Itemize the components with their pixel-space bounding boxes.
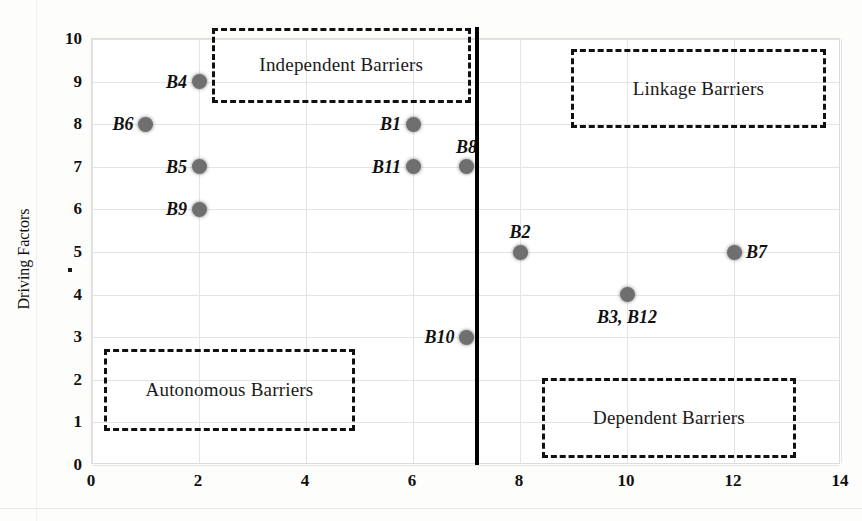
data-point xyxy=(513,245,528,260)
data-point-label: B8 xyxy=(456,138,477,156)
x-axis-tick-label: 0 xyxy=(71,472,111,489)
data-point-label: B5 xyxy=(166,158,187,176)
gridline-vertical xyxy=(92,39,93,463)
quadrant-box-independent: Independent Barriers xyxy=(212,28,471,103)
scan-speck-artifact xyxy=(68,268,72,272)
mdm-diagram-figure: Driving Factors 109876543210 Autonomous … xyxy=(0,0,862,521)
y-axis-tick-label: 3 xyxy=(42,328,82,345)
data-point xyxy=(620,287,635,302)
y-axis-tick-label: 9 xyxy=(42,72,82,89)
y-axis-tick-label: 6 xyxy=(42,200,82,217)
data-point xyxy=(138,117,153,132)
data-point xyxy=(192,74,207,89)
quadrant-box-dependent: Dependent Barriers xyxy=(542,378,796,458)
data-point xyxy=(192,159,207,174)
data-point xyxy=(406,159,421,174)
y-axis-tick-label: 2 xyxy=(42,370,82,387)
quadrant-box-autonomous: Autonomous Barriers xyxy=(104,349,355,431)
y-axis-tick-label: 8 xyxy=(42,115,82,132)
x-axis-tick-label: 12 xyxy=(713,472,753,489)
y-axis-tick-layer: 109876543210 xyxy=(30,38,82,464)
x-axis-tick-layer: 02468101214 xyxy=(91,472,840,496)
quadrant-label-linkage: Linkage Barriers xyxy=(633,78,764,100)
y-axis-tick-label: 4 xyxy=(42,285,82,302)
data-point xyxy=(192,202,207,217)
data-point-label: B9 xyxy=(166,200,187,218)
gridline-horizontal xyxy=(92,295,839,296)
plot-area: Autonomous BarriersDependent BarriersInd… xyxy=(91,38,840,464)
data-point-label: B4 xyxy=(166,73,187,91)
data-point-label: B2 xyxy=(509,223,530,241)
quadrant-divider-line xyxy=(475,27,479,465)
data-point xyxy=(406,117,421,132)
data-point-label: B3, B12 xyxy=(597,308,657,326)
quadrant-box-linkage: Linkage Barriers xyxy=(571,49,826,128)
quadrant-label-autonomous: Autonomous Barriers xyxy=(146,379,314,401)
x-axis-tick-label: 4 xyxy=(285,472,325,489)
data-point xyxy=(727,245,742,260)
y-axis-tick-label: 1 xyxy=(42,413,82,430)
x-axis-tick-label: 2 xyxy=(178,472,218,489)
y-axis-tick-label: 0 xyxy=(42,456,82,473)
quadrant-label-dependent: Dependent Barriers xyxy=(593,407,745,429)
x-axis-tick-label: 8 xyxy=(499,472,539,489)
y-axis-tick-label: 10 xyxy=(42,30,82,47)
y-axis-tick-label: 7 xyxy=(42,157,82,174)
x-axis-tick-label: 14 xyxy=(820,472,860,489)
data-point-label: B10 xyxy=(424,328,454,346)
x-axis-tick-label: 6 xyxy=(392,472,432,489)
x-axis-tick-label: 10 xyxy=(606,472,646,489)
data-point-label: B11 xyxy=(372,158,401,176)
data-point xyxy=(459,159,474,174)
data-point-label: B6 xyxy=(112,115,133,133)
y-axis-tick-label: 5 xyxy=(42,243,82,260)
scan-bottom-rule xyxy=(0,508,862,509)
data-point-label: B7 xyxy=(746,243,767,261)
gridline-horizontal xyxy=(92,465,839,466)
data-point-label: B1 xyxy=(380,115,401,133)
gridline-vertical xyxy=(841,39,842,463)
quadrant-label-independent: Independent Barriers xyxy=(259,54,423,76)
data-point xyxy=(459,330,474,345)
